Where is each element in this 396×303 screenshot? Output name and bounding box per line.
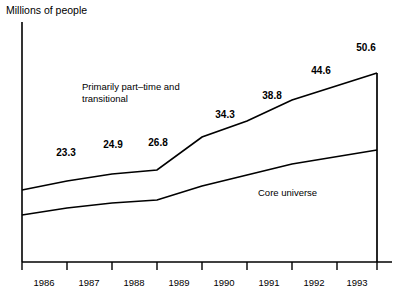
x-axis-ticks	[22, 262, 377, 270]
data-label-1990: 34.3	[215, 109, 235, 120]
x-tick-label-1993: 1993	[346, 277, 367, 288]
data-label-1987: 23.3	[56, 147, 76, 158]
data-label-1991: 38.8	[262, 90, 282, 101]
x-tick-label-1992: 1992	[303, 277, 324, 288]
x-tick-label-1990: 1990	[213, 277, 234, 288]
line-chart-svg: Millions of people 23.3 24.9 26.8 34.3 3…	[0, 0, 396, 303]
series-line-total	[22, 73, 377, 190]
x-tick-label-1987: 1987	[78, 277, 99, 288]
chart-container: Millions of people 23.3 24.9 26.8 34.3 3…	[0, 0, 396, 303]
data-label-1992: 44.6	[311, 65, 331, 76]
x-tick-label-1989: 1989	[168, 277, 189, 288]
data-label-1993: 50.6	[356, 42, 376, 53]
annotation-part-time-line2: transitional	[82, 93, 128, 104]
annotation-part-time-line1: Primarily part–time and	[82, 81, 180, 92]
data-label-1988: 24.9	[103, 139, 123, 150]
annotation-core-universe: Core universe	[258, 187, 317, 198]
data-label-1989: 26.8	[148, 137, 168, 148]
x-tick-label-1986: 1986	[33, 277, 54, 288]
series-line-core-universe	[22, 150, 377, 215]
x-tick-label-1991: 1991	[258, 277, 279, 288]
x-tick-label-1988: 1988	[123, 277, 144, 288]
y-axis-title: Millions of people	[6, 4, 87, 16]
